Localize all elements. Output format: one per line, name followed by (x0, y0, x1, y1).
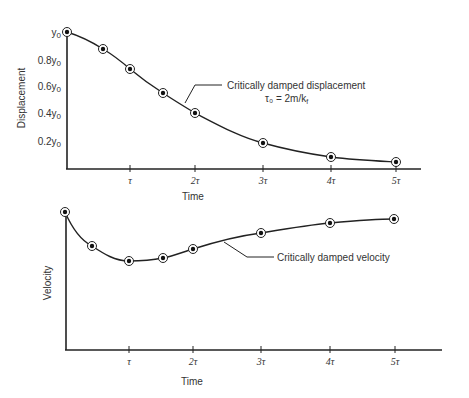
displacement-markers (63, 28, 401, 167)
x-tick-label: 5τ (392, 175, 401, 186)
annotation-label: Critically damped velocity (277, 252, 390, 263)
data-point-marker (191, 109, 200, 118)
y-tick-label: 0.8y0 (38, 55, 62, 68)
x-tick-label: 5τ (391, 356, 400, 367)
x-tick-label: 2τ (191, 175, 200, 186)
data-point-marker (327, 153, 336, 162)
x-axis-label: Time (181, 376, 203, 387)
y-tick-label: 0.6y0 (38, 81, 62, 94)
data-point-marker (126, 65, 135, 74)
annotation-leader (185, 85, 222, 103)
data-point-marker (392, 158, 401, 167)
annotation-leader (224, 242, 274, 257)
figure: τ 2τ 3τ 4τ 5τ y0 0.8y0 0.6y0 0.4y0 0.2y0… (0, 0, 469, 398)
data-point-marker (63, 28, 72, 37)
x-tick-label: 4τ (326, 356, 335, 367)
y-tick-label: 0.4y0 (38, 108, 62, 121)
data-point-marker (159, 254, 168, 263)
y-tick-label: 0.2y0 (38, 136, 62, 149)
x-tick-label: 4τ (327, 175, 336, 186)
y-axis-label: Velocity (42, 266, 53, 300)
data-point-marker (159, 89, 168, 98)
x-axis-label: Time (182, 191, 204, 202)
x-tick-label: 3τ (256, 356, 266, 367)
displacement-chart: τ 2τ 3τ 4τ 5τ y0 0.8y0 0.6y0 0.4y0 0.2y0… (16, 27, 421, 202)
displacement-curve (67, 32, 396, 162)
x-tick-label: τ (127, 356, 131, 367)
data-point-marker (326, 219, 335, 228)
data-point-marker (125, 257, 134, 266)
x-tick-label: 3τ (258, 175, 268, 186)
data-point-marker (259, 139, 268, 148)
annotation-formula: τ₀ = 2m/kf (265, 93, 308, 105)
x-tick-label: 2τ (189, 356, 198, 367)
velocity-chart: τ 2τ 3τ 4τ 5τ Velocity Time Critically d… (42, 208, 442, 388)
data-point-marker (99, 45, 108, 54)
data-point-marker (257, 229, 266, 238)
x-tick-label: τ (128, 175, 132, 186)
data-point-marker (88, 242, 97, 251)
y-tick-label: y0 (52, 27, 62, 40)
data-point-marker (189, 245, 198, 254)
data-point-marker (61, 208, 70, 217)
data-point-marker (390, 215, 399, 224)
y-axis-label: Displacement (16, 67, 27, 128)
annotation-label: Critically damped displacement (227, 80, 366, 91)
